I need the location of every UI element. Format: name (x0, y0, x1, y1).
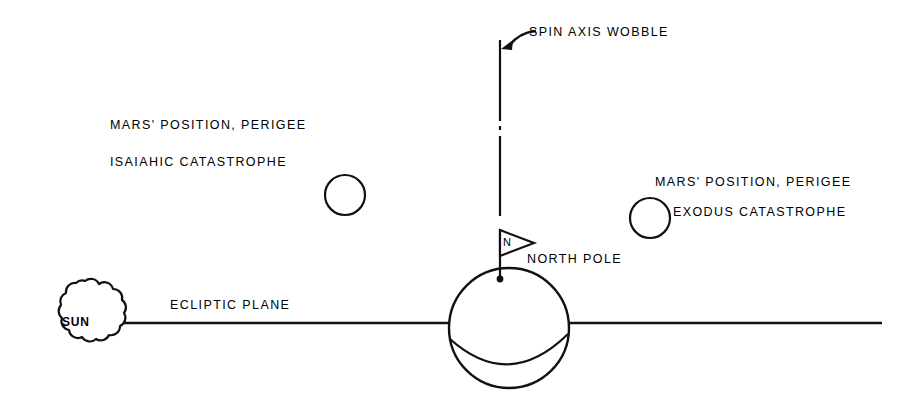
label-sun: SUN (62, 315, 90, 329)
mars-circle-exodus (630, 198, 670, 238)
label-exodus-catastrophe: EXODUS CATASTROPHE (673, 205, 846, 219)
sun-glyph (59, 279, 126, 342)
mars-circle-isaiahic (325, 175, 365, 215)
label-mars-position-perigee-right: MARS' POSITION, PERIGEE (655, 175, 851, 189)
label-ecliptic-plane: ECLIPTIC PLANE (170, 298, 290, 312)
label-north-pole: NORTH POLE (527, 252, 622, 266)
diagram-canvas: SPIN AXIS WOBBLE MARS' POSITION, PERIGEE… (0, 0, 923, 418)
earth-globe (449, 268, 569, 388)
label-isaiahic-catastrophe: ISAIAHIC CATASTROPHE (110, 155, 287, 169)
label-spin-axis-wobble: SPIN AXIS WOBBLE (529, 25, 669, 39)
label-mars-position-perigee-left: MARS' POSITION, PERIGEE (110, 118, 306, 132)
label-flag-north: N (503, 236, 511, 248)
